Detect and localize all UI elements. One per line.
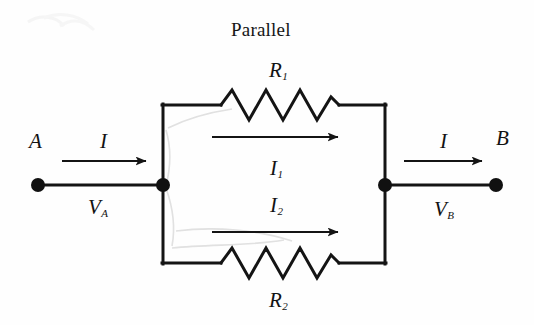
resistor-r2-subscript: 2 [282,300,288,312]
resistor-r1-symbol [221,90,339,120]
resistor-r2-symbol [221,248,339,278]
resistor-r1-letter: R [269,58,282,82]
terminal-dot-b [489,178,503,192]
circuit-diagram-figure: Parallel R1 A I VA I1 I2 R2 I B VB [0,0,534,325]
current-out-label: I [440,131,447,152]
junction-node-right [378,178,392,192]
node-a-label: A [29,131,42,152]
corner-scan-smudge [28,15,94,30]
branch-current-2-label: I2 [270,195,283,217]
voltage-b-subscript: B [447,209,454,221]
branch-current-1-subscript: 1 [277,168,283,180]
resistor-r1-label: R1 [269,60,288,82]
terminal-dot-a [31,178,45,192]
voltage-b-letter: V [434,197,447,221]
branch-current-2-letter: I [270,193,277,217]
circuit-wires [38,104,496,264]
voltage-a-label: VA [88,197,108,219]
voltage-b-label: VB [434,199,454,221]
junction-node-left [156,178,170,192]
branch-current-2-subscript: 2 [277,205,283,217]
figure-title: Parallel [231,20,291,39]
current-in-label: I [100,131,107,152]
branch-current-1-letter: I [270,156,277,180]
voltage-a-letter: V [88,195,101,219]
resistor-r2-letter: R [269,288,282,312]
voltage-a-subscript: A [101,207,108,219]
branch-current-1-label: I1 [270,158,283,180]
resistor-r1-subscript: 1 [282,70,288,82]
resistor-r2-label: R2 [269,290,288,312]
node-b-label: B [496,128,509,149]
circuit-schematic [0,0,534,325]
